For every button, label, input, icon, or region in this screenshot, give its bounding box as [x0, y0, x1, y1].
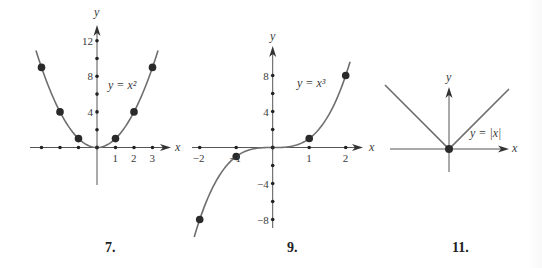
data-point — [38, 64, 46, 72]
data-point — [305, 135, 313, 143]
data-point — [342, 72, 350, 80]
page-edge-shadow — [528, 0, 542, 268]
data-point — [196, 216, 204, 224]
data-point — [130, 108, 138, 116]
y-tick-label: 12 — [82, 35, 93, 47]
y-axis-label: y — [269, 29, 276, 43]
y-axis-label: y — [93, 5, 100, 19]
figure-number: 11. — [452, 240, 469, 255]
y-tick-mark — [271, 164, 275, 168]
x-axis-label: x — [174, 140, 181, 154]
y-axis-label: y — [445, 70, 452, 84]
graph-9-cubic: −2−11284−4−8xyy = x³9. — [192, 29, 375, 255]
x-tick-mark — [344, 146, 348, 150]
y-tick-mark — [271, 200, 275, 204]
graphs-canvas: 1234812xyy = x²7. −2−11284−4−8xyy = x³9.… — [0, 0, 542, 268]
y-tick-mark — [271, 110, 275, 114]
y-tick-label: 4 — [88, 106, 94, 118]
y-tick-label: 4 — [263, 106, 269, 118]
data-point — [56, 108, 64, 116]
function-formula: y = x³ — [296, 76, 326, 90]
x-tick-mark — [77, 146, 81, 150]
x-tick-mark — [40, 146, 44, 150]
data-point — [95, 146, 99, 150]
data-point — [149, 64, 157, 72]
x-tick-mark — [58, 146, 62, 150]
x-tick-mark — [198, 146, 202, 150]
x-tick-label: 2 — [343, 152, 349, 164]
data-point — [112, 135, 120, 143]
function-formula: y = |x| — [469, 126, 501, 140]
x-tick-label: 3 — [150, 152, 156, 164]
x-tick-mark — [234, 146, 238, 150]
y-tick-label: −4 — [257, 178, 269, 190]
y-tick-mark — [271, 128, 275, 132]
x-tick-label: 2 — [131, 152, 137, 164]
graph-11-absolute-value: xyy = |x|11. — [385, 70, 518, 255]
x-tick-mark — [307, 146, 311, 150]
y-tick-mark — [95, 128, 99, 132]
x-tick-mark — [151, 146, 155, 150]
y-tick-mark — [95, 110, 99, 114]
x-tick-mark — [132, 146, 136, 150]
figure-panel: 1234812xyy = x²7. −2−11284−4−8xyy = x³9.… — [0, 0, 542, 268]
y-tick-mark — [95, 92, 99, 96]
y-tick-mark — [271, 74, 275, 78]
y-tick-label: 8 — [88, 70, 94, 82]
x-axis-label: x — [368, 140, 375, 154]
figure-number: 7. — [105, 240, 116, 255]
y-tick-label: 8 — [263, 70, 269, 82]
y-tick-mark — [95, 75, 99, 79]
y-tick-label: −8 — [257, 214, 269, 226]
y-tick-mark — [271, 218, 275, 222]
y-tick-mark — [95, 57, 99, 61]
x-axis-label: x — [511, 141, 518, 155]
y-tick-mark — [95, 39, 99, 43]
x-tick-label: −1 — [229, 152, 241, 164]
graph-7-parabola: 1234812xyy = x²7. — [30, 5, 181, 255]
data-point — [75, 135, 83, 143]
y-tick-mark — [271, 182, 275, 186]
function-formula: y = x² — [107, 78, 137, 92]
x-tick-label: 1 — [113, 152, 119, 164]
figure-number: 9. — [287, 240, 298, 255]
data-point — [445, 145, 453, 153]
x-tick-mark — [114, 146, 118, 150]
x-tick-label: 1 — [306, 152, 312, 164]
x-tick-label: −2 — [193, 152, 205, 164]
data-point — [271, 146, 275, 150]
y-tick-mark — [271, 92, 275, 96]
